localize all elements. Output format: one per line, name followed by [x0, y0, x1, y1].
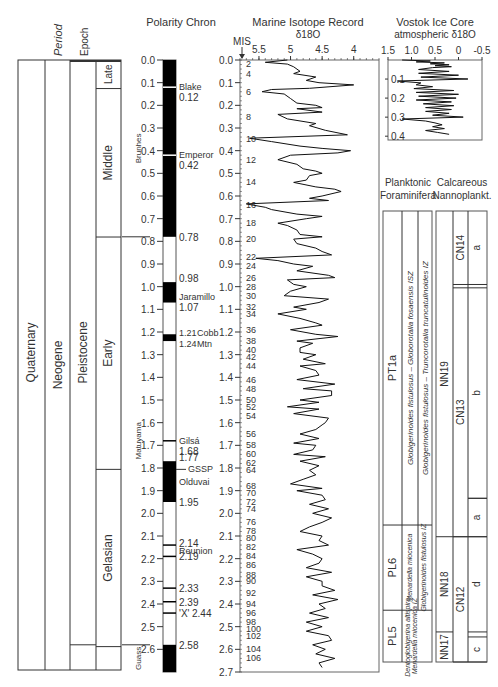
marine-y-tick-label: 0.2: [219, 100, 233, 111]
chron-event-name: Gilsá: [179, 436, 200, 446]
chron-label: Guass: [134, 647, 143, 670]
marine-y-tick-label: 1.2: [219, 327, 233, 338]
mis-stage-label: 36: [246, 325, 256, 335]
marine-y-tick-label: 0.8: [219, 236, 233, 247]
polarity-tick-label: 1.8: [141, 463, 155, 474]
chron-event-value: 2.39: [179, 597, 199, 608]
polarity-tick-label: 2.0: [141, 508, 155, 519]
vostok-xlabel: atmospheric δ18O: [394, 29, 476, 40]
nanno-subzone-label: c: [472, 647, 483, 652]
mis-stage-label: 20: [246, 234, 256, 244]
marine-y-tick-label: 0.9: [219, 259, 233, 270]
foram-title-line2: Foraminifera: [380, 190, 437, 201]
vostok-title: Vostok Ice Core: [396, 16, 474, 28]
polarity-tick-label: 1.4: [141, 372, 155, 383]
nn-zone-label: NN19: [440, 361, 451, 387]
polarity-title: Polarity Chron: [146, 16, 216, 28]
normal-polarity-interval: [163, 282, 176, 302]
strat-unit-label: Pleistocene: [76, 321, 90, 383]
chron-event-value: 1.77: [179, 452, 199, 463]
nanno-title: Calcareous: [437, 177, 488, 188]
nanno-subzone-label: d: [472, 582, 483, 588]
mis-stage-label: 92: [246, 588, 256, 598]
vostok-x-tick-label: 0.5: [428, 45, 442, 56]
mis-stage-label: 64: [246, 465, 256, 475]
mis-stage-label: 34: [246, 309, 256, 319]
mis-stage-label: 30: [246, 291, 256, 301]
chron-event-value: 0.12: [179, 92, 199, 103]
foram-subzone-label: Globigerinoides fistulosus – Truncorotal…: [421, 260, 430, 475]
polarity-tick-label: 0.4: [141, 146, 155, 157]
nanno-subzone-label: a: [472, 514, 483, 520]
chron-event-value: 0.42: [179, 160, 199, 171]
mis-stage-label: 8: [246, 112, 251, 122]
marine-isotope-series-line: [246, 60, 353, 668]
polarity-tick-label: 2.6: [141, 644, 155, 655]
chron-event-name: Olduvai: [179, 477, 210, 487]
chron-event-value: 0.78: [179, 232, 199, 243]
marine-y-tick-label: 2.2: [219, 554, 233, 565]
chron-event-name: Mtn: [197, 339, 212, 349]
chron-event-value: 2.58: [179, 640, 199, 651]
period-header: Period: [52, 23, 64, 56]
mis-stage-label: 56: [246, 429, 256, 439]
foram-zone-label: PT1a: [387, 354, 399, 381]
marine-y-tick-label: 1.5: [219, 395, 233, 406]
foram-zone-label: PL5: [387, 626, 399, 646]
marine-y-tick-label: 2.3: [219, 576, 233, 587]
marine-y-tick-label: 1.0: [219, 282, 233, 293]
vostok-x-tick-label: 1.0: [405, 45, 419, 56]
epoch-header: Epoch: [79, 28, 90, 56]
chron-event-value: 1.95: [179, 497, 199, 508]
polarity-tick-label: 0.0: [141, 55, 155, 66]
marine-y-tick-label: 0.6: [219, 191, 233, 202]
marine-plot-frame: [240, 60, 379, 672]
chron-event-value: 1.24: [179, 339, 197, 349]
foram-subzone-label: Menardella miocenica: [406, 533, 413, 601]
marine-x-tick-label: 4: [351, 44, 357, 55]
chron-event-value: 0.98: [179, 273, 199, 284]
strat-unit-label: Late: [104, 64, 115, 84]
marine-xlabel: δ18O: [296, 29, 321, 40]
polarity-tick-label: 1.9: [141, 486, 155, 497]
marine-x-tick-label: 5.5: [252, 44, 266, 55]
vostok-ice-core-panel: Vostok Ice Coreatmospheric δ18O1.51.00.5…: [381, 16, 491, 142]
polarity-tick-label: 2.4: [141, 599, 155, 610]
polarity-tick-label: 2.3: [141, 576, 155, 587]
mis-stage-label: 74: [246, 504, 256, 514]
mis-stage-label: 24: [246, 261, 256, 271]
vostok-y-tick-label: 0.2: [391, 93, 405, 104]
polarity-tick-label: 0.5: [141, 168, 155, 179]
cn-zone-label: CN14: [456, 235, 467, 261]
nn-zone-label: NN18: [440, 571, 451, 597]
marine-y-tick-label: 1.6: [219, 418, 233, 429]
marine-y-tick-label: 0.1: [219, 78, 233, 89]
vostok-x-tick-label: -0.5: [473, 45, 491, 56]
marine-y-tick-label: 1.8: [219, 463, 233, 474]
chron-event-value: 2.44: [192, 608, 212, 619]
vostok-y-tick-label: 0.4: [391, 131, 405, 142]
polarity-tick-label: 1.3: [141, 350, 155, 361]
chron-event-value: 1.21: [179, 328, 197, 338]
mis-stage-label: 18: [246, 218, 256, 228]
vostok-y-tick-label: 0.1: [391, 74, 405, 85]
polarity-tick-label: 1.0: [141, 282, 155, 293]
chron-event-name: 'X': [179, 608, 190, 619]
chron-event-value: 2.33: [179, 583, 199, 594]
chron-label: Matuyama: [134, 422, 143, 460]
polarity-tick-label: 0.2: [141, 100, 155, 111]
cn-zone-label: CN13: [456, 399, 467, 425]
chron-event-name: Jaramillo: [179, 292, 215, 302]
polarity-chron-panel: Polarity Chron0.00.10.20.30.40.50.60.70.…: [122, 16, 219, 672]
vostok-series-line: [397, 60, 468, 134]
mis-stage-label: 14: [246, 177, 256, 187]
vostok-y-tick-label: 0.3: [391, 112, 405, 123]
marine-title: Marine Isotope Record: [252, 16, 363, 28]
polarity-tick-label: 0.8: [141, 236, 155, 247]
mis-stage-label: 44: [246, 361, 256, 371]
chron-event-name: Blake: [179, 82, 202, 92]
nanno-subzone-label: a: [472, 245, 483, 251]
mis-stage-label: 90: [246, 576, 256, 586]
chron-event-value: 1.07: [179, 302, 199, 313]
polarity-tick-label: 0.6: [141, 191, 155, 202]
